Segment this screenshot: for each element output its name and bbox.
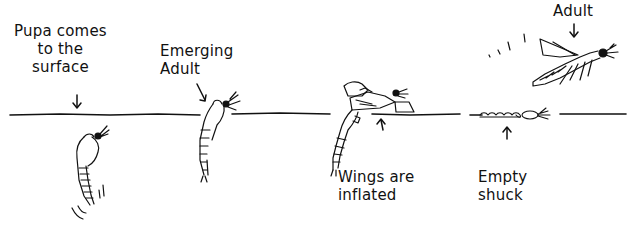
label-line: Adult — [160, 60, 234, 78]
label-line: shuck — [478, 186, 527, 204]
arrow-icon — [377, 119, 385, 130]
label-line: to the — [14, 40, 107, 58]
inflating-adult-drawing — [331, 82, 414, 176]
flying-adult-drawing — [489, 34, 618, 86]
arrow-icon — [570, 24, 578, 37]
label-adult: Adult — [553, 2, 593, 20]
label-line: inflated — [338, 186, 414, 204]
label-emerging-adult: Emerging Adult — [160, 42, 234, 78]
empty-shuck-drawing — [480, 108, 550, 119]
arrow-icon — [73, 95, 81, 108]
emerging-adult-drawing — [200, 92, 240, 182]
label-wings-inflated: Wings are inflated — [338, 168, 414, 204]
emergence-diagram: Pupa comes to the surface Emerging Adult… — [0, 0, 632, 232]
label-line: Adult — [553, 2, 593, 20]
label-line: Wings are — [338, 168, 414, 186]
label-line: Empty — [478, 168, 527, 186]
label-empty-shuck: Empty shuck — [478, 168, 527, 204]
water-surface-line — [10, 113, 626, 115]
label-pupa-comes-to-surface: Pupa comes to the surface — [14, 22, 107, 76]
label-line: surface — [14, 58, 107, 76]
arrow-icon — [503, 127, 511, 139]
arrow-icon — [197, 84, 206, 101]
pupa-drawing — [72, 126, 109, 219]
label-line: Pupa comes — [14, 22, 107, 40]
label-line: Emerging — [160, 42, 234, 60]
